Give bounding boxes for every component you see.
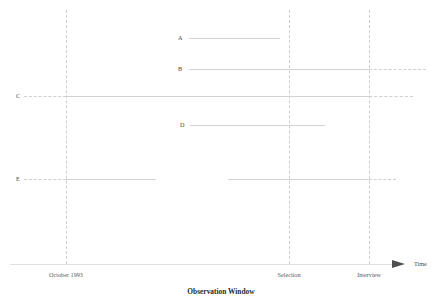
subject-b-segment-1 <box>189 69 369 70</box>
reference-line-october-1993 <box>66 10 67 264</box>
subject-e-segment-1 <box>24 179 66 180</box>
subject-c-segment-1 <box>24 96 66 97</box>
subject-label-a: A <box>178 35 183 41</box>
subject-e-segment-4 <box>369 179 396 180</box>
subject-label-e: E <box>16 176 20 182</box>
subject-label-c: C <box>16 93 20 99</box>
subject-c-segment-2 <box>66 96 369 97</box>
time-axis-arrow <box>392 260 405 268</box>
reference-line-interview <box>369 10 370 264</box>
subject-b-segment-2 <box>369 69 426 70</box>
subject-a-segment-1 <box>189 38 280 39</box>
timeline-figure: ABCDE Time October 1993SelectionIntervie… <box>0 0 442 305</box>
subject-d-segment-1 <box>190 125 325 126</box>
subject-c-segment-3 <box>369 96 413 97</box>
subject-e-segment-2 <box>66 179 156 180</box>
x-tick-label-interview: Interview <box>0 272 442 278</box>
time-axis-label: Time <box>414 261 427 267</box>
subject-label-b: B <box>178 66 182 72</box>
reference-line-selection <box>289 10 290 264</box>
subject-e-segment-3 <box>228 179 369 180</box>
time-axis-line <box>10 264 400 265</box>
axis-title: Observation Window <box>0 288 442 295</box>
subject-label-d: D <box>180 122 185 128</box>
